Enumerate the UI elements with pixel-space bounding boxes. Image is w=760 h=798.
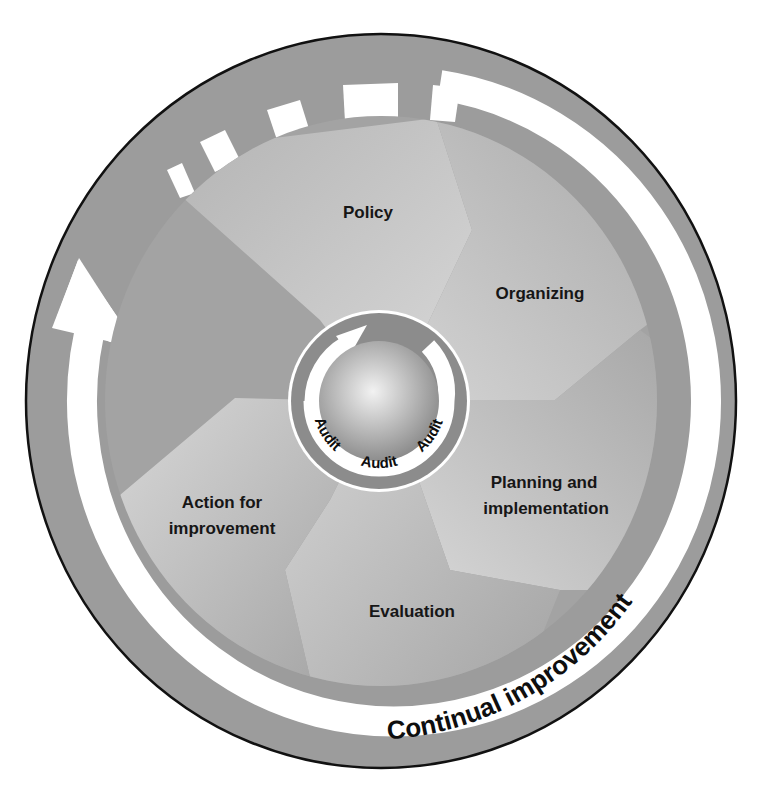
audit-label: Audit <box>360 452 399 471</box>
label-planning-line1: Planning and <box>491 473 598 492</box>
label-action-line2: improvement <box>169 519 276 538</box>
label-policy: Policy <box>343 203 394 222</box>
label-planning-line2: implementation <box>483 499 609 518</box>
label-action-line1: Action for <box>182 493 263 512</box>
oshms-cycle-diagram: Policy Organizing Planning and implement… <box>0 0 760 798</box>
label-organizing: Organizing <box>496 284 585 303</box>
label-evaluation: Evaluation <box>369 602 455 621</box>
audit-ring: Audit Audit Audit <box>288 310 470 492</box>
